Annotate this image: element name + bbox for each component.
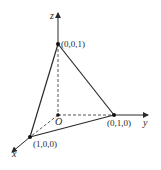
edge-c-a (30, 44, 58, 137)
point-b (112, 113, 116, 117)
point-a-label: (1,0,0) (33, 139, 57, 149)
point-c-label: (0,0,1) (61, 39, 85, 49)
point-c (56, 42, 60, 46)
point-a (28, 135, 32, 139)
y-axis-label: y (142, 117, 148, 128)
x-axis-label: x (11, 148, 17, 159)
z-axis-label: z (49, 10, 54, 21)
point-b-label: (0,1,0) (107, 118, 131, 128)
tetrahedron-diagram: z y x O (0,0,1) (0,1,0) (1,0,0) (0, 0, 161, 170)
edge-c-b (58, 44, 114, 115)
origin-label: O (55, 116, 62, 127)
edge-a-b (30, 115, 114, 137)
